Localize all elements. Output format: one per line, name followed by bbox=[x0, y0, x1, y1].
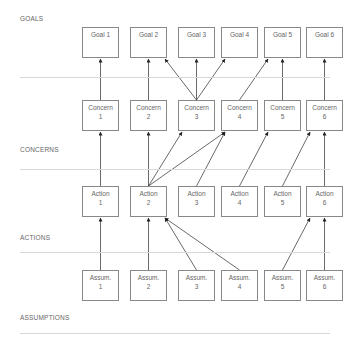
row-label-actions: ACTIONS bbox=[20, 234, 50, 241]
node-c5: Concern5 bbox=[264, 100, 301, 131]
node-label: Concern bbox=[179, 104, 214, 113]
node-label: Goal 5 bbox=[265, 31, 300, 40]
node-g2: Goal 2 bbox=[130, 27, 167, 58]
node-label: Action bbox=[265, 190, 300, 199]
node-a5: Action5 bbox=[264, 186, 301, 217]
node-label: Concern bbox=[307, 104, 342, 113]
node-g5: Goal 5 bbox=[264, 27, 301, 58]
node-label: Action bbox=[179, 190, 214, 199]
node-label: Action bbox=[222, 190, 257, 199]
node-label: Concern bbox=[265, 104, 300, 113]
node-number: 5 bbox=[265, 283, 300, 292]
row-separator bbox=[20, 333, 330, 334]
node-label: Goal 6 bbox=[307, 31, 342, 40]
node-label: Assum. bbox=[179, 274, 214, 283]
node-number: 3 bbox=[179, 113, 214, 122]
node-c4: Concern4 bbox=[221, 100, 258, 131]
node-label: Concern bbox=[83, 104, 118, 113]
edge-a5-to-c6 bbox=[283, 132, 311, 186]
node-number: 2 bbox=[131, 283, 166, 292]
node-label: Assum. bbox=[131, 274, 166, 283]
node-label: Assum. bbox=[222, 274, 257, 283]
node-c2: Concern2 bbox=[130, 100, 167, 131]
node-number: 5 bbox=[265, 199, 300, 208]
node-a2: Action2 bbox=[130, 186, 167, 217]
edge-s4-to-a2 bbox=[165, 218, 240, 270]
node-label: Goal 1 bbox=[83, 31, 118, 40]
node-label: Goal 3 bbox=[179, 31, 214, 40]
node-s1: Assum.1 bbox=[82, 270, 119, 301]
node-number: 2 bbox=[131, 113, 166, 122]
node-number: 4 bbox=[222, 113, 257, 122]
node-c6: Concern6 bbox=[306, 100, 343, 131]
edge-c3-to-g2 bbox=[165, 59, 197, 100]
node-a1: Action1 bbox=[82, 186, 119, 217]
edge-a2-to-c3 bbox=[149, 132, 183, 186]
edge-s3-to-a2 bbox=[165, 218, 197, 270]
node-label: Action bbox=[131, 190, 166, 199]
node-number: 3 bbox=[179, 199, 214, 208]
node-label: Concern bbox=[222, 104, 257, 113]
node-number: 1 bbox=[83, 199, 118, 208]
edge-c3-to-g4 bbox=[197, 59, 226, 100]
node-number: 4 bbox=[222, 283, 257, 292]
node-a3: Action3 bbox=[178, 186, 215, 217]
edge-c4-to-g5 bbox=[240, 59, 269, 100]
node-s3: Assum.3 bbox=[178, 270, 215, 301]
row-separator bbox=[20, 77, 330, 78]
row-separator bbox=[20, 169, 330, 170]
node-a4: Action4 bbox=[221, 186, 258, 217]
node-number: 1 bbox=[83, 283, 118, 292]
diagram-canvas: GOALSGoal 1Goal 2Goal 3Goal 4Goal 5Goal … bbox=[0, 0, 361, 341]
edge-a2-to-c4 bbox=[149, 132, 226, 186]
node-s5: Assum.5 bbox=[264, 270, 301, 301]
node-number: 2 bbox=[131, 199, 166, 208]
row-label-assumptions: ASSUMPTIONS bbox=[20, 314, 70, 321]
node-label: Goal 4 bbox=[222, 31, 257, 40]
row-label-goals: GOALS bbox=[20, 15, 43, 22]
node-number: 1 bbox=[83, 113, 118, 122]
node-label: Action bbox=[307, 190, 342, 199]
edge-s5-to-a6 bbox=[283, 218, 311, 270]
edge-a3-to-c4 bbox=[197, 132, 226, 186]
node-g6: Goal 6 bbox=[306, 27, 343, 58]
node-g4: Goal 4 bbox=[221, 27, 258, 58]
node-label: Action bbox=[83, 190, 118, 199]
node-a6: Action6 bbox=[306, 186, 343, 217]
node-g3: Goal 3 bbox=[178, 27, 215, 58]
node-number: 6 bbox=[307, 113, 342, 122]
node-g1: Goal 1 bbox=[82, 27, 119, 58]
row-separator bbox=[20, 252, 330, 253]
node-label: Assum. bbox=[265, 274, 300, 283]
node-number: 4 bbox=[222, 199, 257, 208]
edge-a4-to-c5 bbox=[240, 132, 269, 186]
node-s4: Assum.4 bbox=[221, 270, 258, 301]
node-c1: Concern1 bbox=[82, 100, 119, 131]
node-number: 3 bbox=[179, 283, 214, 292]
node-number: 6 bbox=[307, 283, 342, 292]
node-label: Assum. bbox=[83, 274, 118, 283]
node-label: Goal 2 bbox=[131, 31, 166, 40]
node-label: Concern bbox=[131, 104, 166, 113]
node-label: Assum. bbox=[307, 274, 342, 283]
node-s6: Assum.6 bbox=[306, 270, 343, 301]
row-label-concerns: CONCERNS bbox=[20, 146, 59, 153]
node-number: 5 bbox=[265, 113, 300, 122]
node-c3: Concern3 bbox=[178, 100, 215, 131]
node-s2: Assum.2 bbox=[130, 270, 167, 301]
node-number: 6 bbox=[307, 199, 342, 208]
